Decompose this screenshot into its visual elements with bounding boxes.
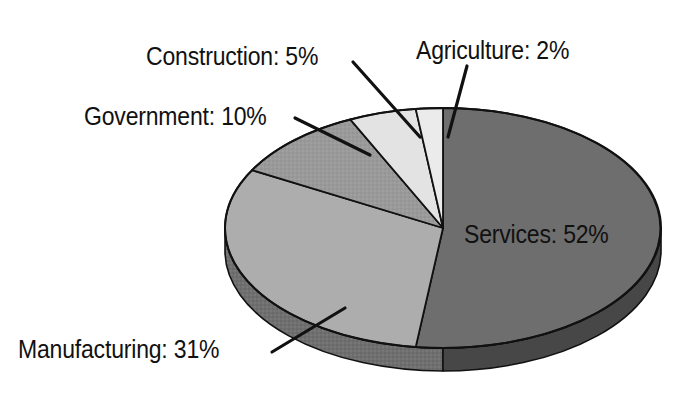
pie-chart-figure: Construction: 5% Agriculture: 2% Governm… xyxy=(0,0,694,406)
slice-label-agriculture: Agriculture: 2% xyxy=(416,38,569,63)
slice-label-construction: Construction: 5% xyxy=(146,44,318,69)
slice-label-manufacturing: Manufacturing: 31% xyxy=(18,337,219,362)
slice-label-services: Services: 52% xyxy=(464,222,609,247)
slice-label-government: Government: 10% xyxy=(84,104,267,129)
